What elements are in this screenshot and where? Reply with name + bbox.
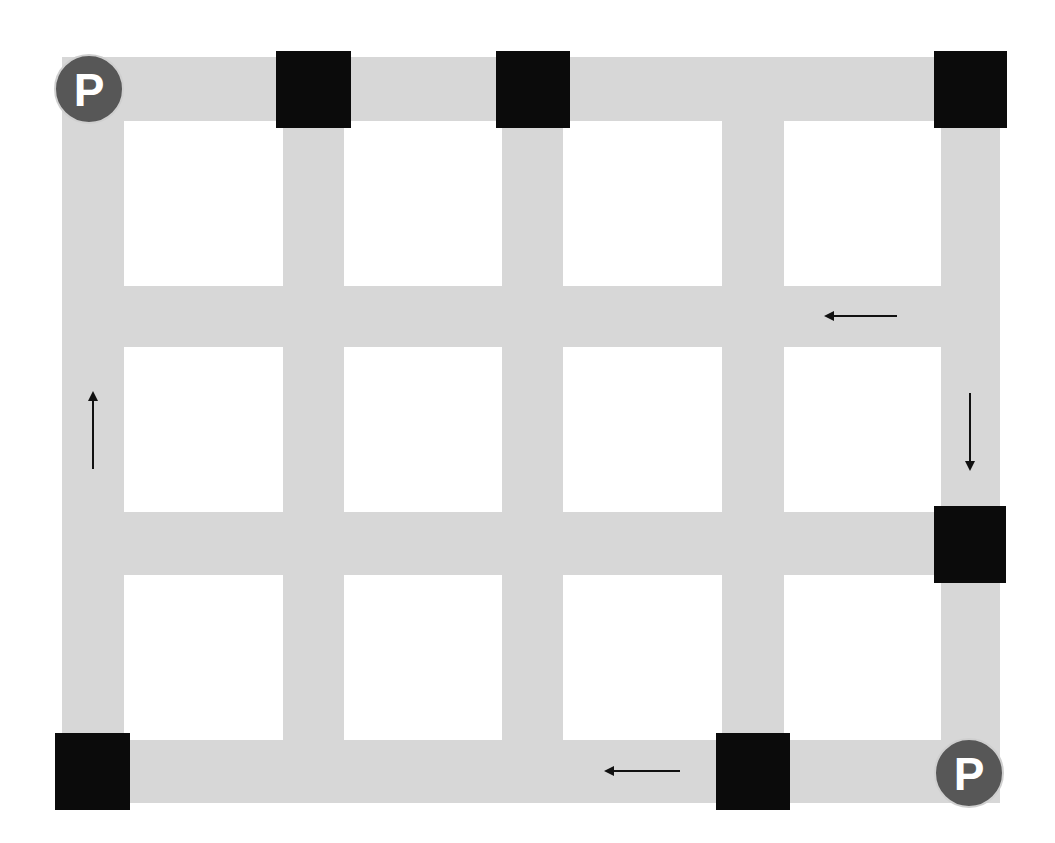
parking-bottom-right-icon: P: [934, 738, 1004, 808]
street-grid-diagram: PP: [0, 0, 1055, 843]
parking-label: P: [74, 67, 105, 113]
parking-top-left-icon: P: [54, 54, 124, 124]
direction-arrows: [0, 0, 1055, 843]
parking-label: P: [954, 751, 985, 797]
